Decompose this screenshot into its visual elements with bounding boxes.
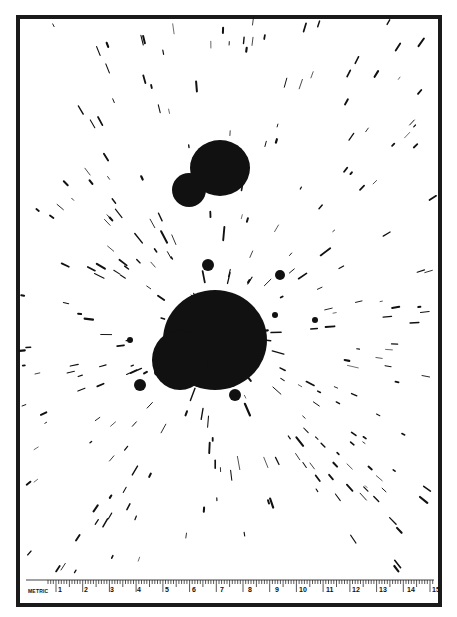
ruler-number-9: 9	[275, 586, 279, 593]
ruler-number-10: 10	[299, 586, 307, 593]
ruler-number-3: 3	[110, 586, 114, 593]
ruler-number-4: 4	[137, 586, 141, 593]
ruler-number-13: 13	[379, 586, 387, 593]
ruler-number-2: 2	[84, 586, 88, 593]
blob-main-lobe	[152, 330, 208, 390]
ruler-number-14: 14	[407, 586, 415, 593]
blob-upper-small	[172, 173, 206, 207]
metric-ruler: METRIC 123456789101112131415	[20, 576, 436, 598]
spatter-pattern	[0, 0, 457, 617]
ruler-number-6: 6	[192, 586, 196, 593]
ruler-number-8: 8	[248, 586, 252, 593]
ruler-metric-label: METRIC	[28, 588, 48, 594]
ruler-number-7: 7	[220, 586, 224, 593]
ruler-number-5: 5	[165, 586, 169, 593]
ruler-number-1: 1	[58, 586, 62, 593]
ruler-number-11: 11	[326, 586, 333, 593]
ruler-number-12: 12	[352, 586, 360, 593]
ruler-number-15: 15	[432, 586, 440, 593]
ruler-ticks	[20, 576, 436, 598]
